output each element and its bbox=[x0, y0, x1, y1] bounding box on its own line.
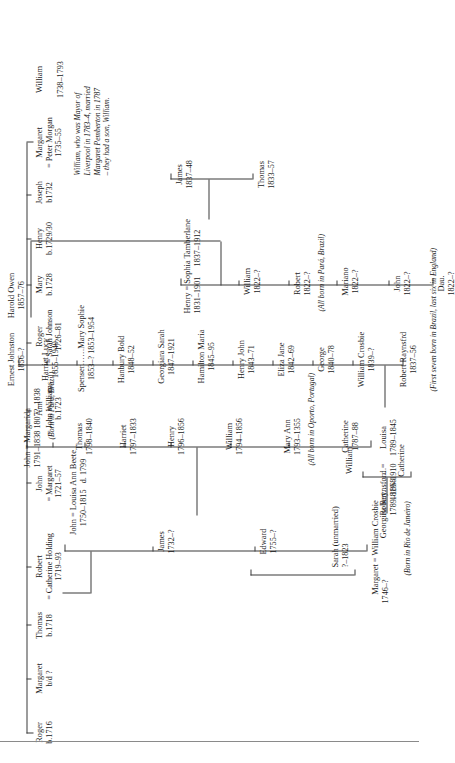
gen5-tick bbox=[288, 280, 289, 285]
person-dates: 1732–? bbox=[166, 515, 175, 567]
person-dates: 1840–78 bbox=[326, 327, 335, 391]
note-line: – they had a son, William. bbox=[101, 86, 111, 175]
gen5-tick bbox=[238, 280, 239, 285]
person-dates: 1755–? bbox=[268, 515, 277, 567]
person-name: Robert……… bbox=[378, 411, 388, 515]
person-name: Mariano bbox=[340, 251, 350, 311]
person-name: William bbox=[224, 407, 234, 465]
person-name: Robert bbox=[34, 529, 44, 603]
gen5-tick bbox=[388, 280, 389, 285]
person-node: Thomas b.1718 bbox=[34, 601, 53, 649]
person-node: Dau. 1822–? bbox=[436, 255, 455, 311]
gen1-tick bbox=[26, 238, 31, 239]
person-dates: 1822–? bbox=[252, 251, 261, 311]
person-node: Harriet 1797–1833 bbox=[118, 407, 137, 465]
person-dates: 1789–1868 bbox=[388, 411, 397, 515]
gen1-to-gen2-drop bbox=[62, 592, 90, 593]
person-dates-text: 1791–1838 bbox=[32, 430, 41, 467]
person-name: Henry bbox=[34, 211, 44, 265]
person-dates: 1842–69 bbox=[286, 327, 295, 391]
person-node: Catherine bbox=[396, 429, 406, 491]
person-node: Henry b.1729/30 bbox=[34, 211, 53, 265]
person-name: Margaret bbox=[34, 651, 44, 705]
person-node: William 1738–1793 bbox=[34, 47, 64, 111]
person-name: Mary bbox=[34, 261, 44, 307]
person-node: Harriet Lucy 1855–1940 bbox=[40, 327, 59, 391]
gen4-child-tick bbox=[232, 360, 233, 365]
gen1-bracket-right-end bbox=[26, 141, 33, 142]
gen1-tick bbox=[26, 194, 31, 195]
robert-louisa-marriage: Robert……… 1789–1868 bbox=[378, 411, 397, 515]
person-name-text: Sarah bbox=[330, 548, 339, 567]
person-suffix: (unmarried) bbox=[330, 506, 339, 546]
person-name: Thomas bbox=[74, 407, 84, 465]
person-dates: b.1728 bbox=[44, 261, 53, 307]
gen3-to-gen5-link bbox=[30, 241, 31, 317]
person-node: Robert = Catherine Holding 1719–93 bbox=[34, 529, 62, 603]
person-dates: 1853–? 1853–1954 bbox=[86, 293, 95, 403]
person-dates: 1843–71 bbox=[246, 327, 255, 391]
gen1-to-gen2-link bbox=[90, 551, 91, 593]
person-dates-birth: 1750–1815 bbox=[78, 489, 87, 526]
edward-sarah-bracket-spine bbox=[250, 574, 354, 575]
gen5-tick bbox=[336, 280, 337, 285]
person-dates: 1735–55 bbox=[53, 109, 62, 175]
person-dates: 1845–95 bbox=[206, 321, 215, 391]
person-name: Joseph bbox=[34, 171, 44, 213]
gen2-bracket-spine bbox=[64, 550, 366, 551]
person-dates: 1822–? bbox=[350, 251, 359, 311]
person-name: William bbox=[242, 251, 252, 311]
person-node: Thomas 1798–1840 bbox=[74, 407, 93, 465]
person-dates: 1857–76 bbox=[16, 263, 25, 327]
person-name: Margaret bbox=[34, 109, 44, 175]
gen4-child-tick bbox=[192, 360, 193, 365]
person-name: John bbox=[68, 519, 77, 535]
person-node: Joseph b1732 bbox=[34, 171, 53, 213]
person-node: Henry 1796–1856 bbox=[166, 407, 185, 465]
person-node: John 1822–? bbox=[392, 255, 411, 311]
spouse-dates: 1837–1912 bbox=[192, 229, 201, 266]
person-node: George 1840–78 bbox=[316, 327, 335, 391]
gen4-child-tick bbox=[112, 360, 113, 365]
note-para-all: (All born in Pará, Brazil) bbox=[316, 234, 326, 311]
person-node: Catherine 1787–88 bbox=[340, 407, 359, 465]
person-node: Mary b.1728 bbox=[34, 261, 53, 307]
person-name: Dau. bbox=[436, 255, 446, 311]
gen4-child-tick bbox=[152, 360, 153, 365]
person-dates: 1798–1840 bbox=[84, 407, 93, 465]
person-dates: 1794–1856 bbox=[234, 407, 243, 465]
gen5-bracket-bottom-end bbox=[432, 278, 433, 285]
person-dates: 1793–1355 bbox=[292, 407, 301, 465]
person-dates: b/d ? bbox=[44, 651, 53, 705]
person-name: Ernest Johnston bbox=[6, 327, 16, 391]
spouse-dates: 1807?–1838 bbox=[32, 388, 41, 428]
note-william-mayor: William, who was Mayor of Liverpool in 1… bbox=[72, 86, 111, 175]
gen1-tick bbox=[26, 482, 31, 483]
person-node: Hamilton Maria 1845–95 bbox=[196, 321, 215, 391]
person-dates: 1822–? bbox=[302, 255, 311, 311]
person-name: Harriet bbox=[118, 407, 128, 465]
person-node: Ernest Johnston 1856–? bbox=[6, 327, 25, 391]
note-line: Liverpool in 1783–4, married bbox=[82, 86, 92, 175]
person-dates: 1822–? bbox=[402, 255, 411, 311]
person-node: Robert 1822–? bbox=[292, 255, 311, 311]
person-name-text: Robert bbox=[378, 492, 387, 515]
crosbie-children-top bbox=[362, 471, 363, 477]
note-oporto: (All born in Oporto, Portugal) bbox=[306, 372, 316, 465]
gen2-to-gen3-link bbox=[196, 447, 197, 515]
gen1-tick bbox=[26, 624, 31, 625]
gen4-child-tick bbox=[312, 360, 313, 365]
person-name: John bbox=[392, 255, 402, 311]
gen2-tick bbox=[152, 546, 153, 551]
person-dates: 1837–48 bbox=[184, 143, 193, 205]
gen5-entry bbox=[220, 241, 221, 285]
person-dates: 1855–1940 bbox=[50, 327, 59, 391]
person-node: Mariano 1822–? bbox=[340, 251, 359, 311]
person-dates: 1833–57 bbox=[266, 143, 275, 205]
person-node: William Crosbie 1839–? bbox=[356, 327, 375, 391]
person-dates-text: 1831–1901 bbox=[192, 276, 201, 313]
person-dates: 1847–1921 bbox=[166, 319, 175, 393]
person-node: Edward 1755–? bbox=[258, 515, 277, 567]
person-node: Hanbury Bold 1848–52 bbox=[116, 327, 135, 391]
